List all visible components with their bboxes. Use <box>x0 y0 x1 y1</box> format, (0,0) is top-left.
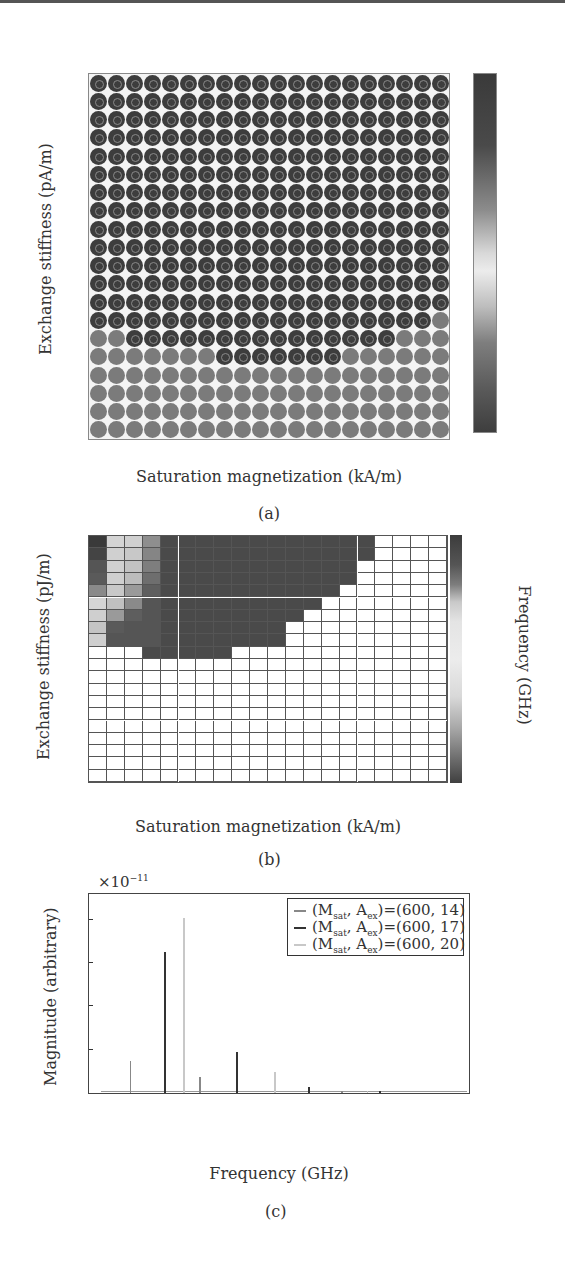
heatmap-b-cell <box>375 610 393 622</box>
spectrum-x-axis-label: Frequency (GHz) <box>88 1166 470 1182</box>
heatmap-b-cell <box>429 659 447 671</box>
heatmap-b-cell <box>250 622 268 634</box>
heatmap-a-cell <box>270 111 287 128</box>
heatmap-b-cell <box>125 610 143 622</box>
heatmap-b-cell <box>340 585 358 597</box>
heatmap-b-cell <box>322 770 340 782</box>
heatmap-a-cell <box>306 421 323 438</box>
heatmap-b-cell <box>107 671 125 683</box>
heatmap-a-cell <box>108 312 125 329</box>
heatmap-b-cell <box>375 745 393 757</box>
heatmap-a-cell <box>198 294 215 311</box>
heatmap-a-cell <box>180 257 197 274</box>
heatmap-a-cell <box>378 184 395 201</box>
heatmap-b-cell <box>411 757 429 769</box>
heatmap-a-cell <box>126 275 143 292</box>
heatmap-a-cell <box>180 239 197 256</box>
heatmap-b-cell <box>161 634 179 646</box>
heatmap-a-cell <box>342 257 359 274</box>
heatmap-a-cell <box>144 257 161 274</box>
heatmap-a-cell <box>396 221 413 238</box>
heatmap-a-cell <box>414 330 431 347</box>
heatmap-b-cell <box>375 671 393 683</box>
heatmap-b-cell <box>304 757 322 769</box>
heatmap-b-cell <box>322 696 340 708</box>
heatmap-b-cell <box>125 708 143 720</box>
heatmap-a-cell <box>144 294 161 311</box>
heatmap-a-cell <box>360 239 377 256</box>
heatmap-a-cell <box>396 421 413 438</box>
heatmap-b-cell <box>143 671 161 683</box>
heatmap-b-cell <box>304 733 322 745</box>
heatmap-a-cell <box>252 257 269 274</box>
heatmap-b-cell <box>358 684 376 696</box>
heatmap-b-cell <box>214 622 232 634</box>
heatmap-a-cell <box>144 202 161 219</box>
heatmap-a-cell <box>414 421 431 438</box>
heatmap-a-cell <box>252 184 269 201</box>
heatmap-a-cell <box>216 330 233 347</box>
heatmap-b-cell <box>89 684 107 696</box>
heatmap-b-cell <box>358 757 376 769</box>
heatmap-b-cell <box>304 684 322 696</box>
heatmap-b-cell <box>232 573 250 585</box>
heatmap-a-cell <box>270 75 287 92</box>
heatmap-a-cell <box>198 148 215 165</box>
heatmap-b-cell <box>161 745 179 757</box>
heatmap-b-cell <box>179 721 197 733</box>
heatmap-b-cell <box>411 671 429 683</box>
heatmap-b-cell <box>196 770 214 782</box>
heatmap-a-cell <box>342 312 359 329</box>
heatmap-a-cell <box>342 348 359 365</box>
heatmap-a-cell <box>432 75 449 92</box>
heatmap-b-cell <box>161 536 179 548</box>
heatmap-b-cell <box>322 610 340 622</box>
heatmap-a-cell <box>288 93 305 110</box>
heatmap-b-cell <box>196 721 214 733</box>
heatmap-b-cell <box>304 659 322 671</box>
heatmap-a-cell <box>270 129 287 146</box>
heatmap-b-cell <box>268 745 286 757</box>
heatmap-a-cell <box>378 239 395 256</box>
heatmap-b-cell <box>375 536 393 548</box>
heatmap-a-cell <box>252 367 269 384</box>
heatmap-a-cell <box>234 312 251 329</box>
heatmap-b-cell <box>107 684 125 696</box>
heatmap-a-cell <box>198 330 215 347</box>
heatmap-a-cell <box>216 275 233 292</box>
heatmap-b-cell <box>89 622 107 634</box>
legend-text-mid: , A <box>347 918 367 936</box>
heatmap-b-cell <box>107 634 125 646</box>
heatmap-b-cell <box>196 634 214 646</box>
heatmap-a-cell <box>234 202 251 219</box>
heatmap-b-cell <box>125 745 143 757</box>
heatmap-b-cell <box>358 671 376 683</box>
heatmap-a-cell <box>180 421 197 438</box>
heatmap-b-cell <box>393 548 411 560</box>
heatmap-b-cell <box>107 745 125 757</box>
heatmap-a-cell <box>432 421 449 438</box>
panel-b-caption: (b) <box>258 850 281 869</box>
heatmap-b-colorbar-label: Frequency (GHz) <box>516 585 532 725</box>
heatmap-b-cell <box>125 573 143 585</box>
heatmap-b-cell <box>161 721 179 733</box>
heatmap-a-cell <box>360 129 377 146</box>
heatmap-a-cell <box>126 129 143 146</box>
heatmap-a-cell <box>144 330 161 347</box>
legend-text-sub1: sat <box>333 945 347 955</box>
heatmap-a-cell <box>414 294 431 311</box>
heatmap-b-cell <box>340 610 358 622</box>
legend-text-prefix: (M <box>312 935 333 953</box>
heatmap-b-cell <box>232 684 250 696</box>
heatmap-a-cell <box>432 148 449 165</box>
heatmap-b-cell <box>143 659 161 671</box>
heatmap-b-cell <box>411 745 429 757</box>
legend-text-prefix: (M <box>312 918 333 936</box>
heatmap-a-cell <box>162 312 179 329</box>
heatmap-b-cell <box>411 536 429 548</box>
heatmap-a-cell <box>288 385 305 402</box>
heatmap-b-cell <box>89 548 107 560</box>
heatmap-b-cell <box>358 585 376 597</box>
heatmap-a-cell <box>396 312 413 329</box>
heatmap-a-cell <box>342 421 359 438</box>
